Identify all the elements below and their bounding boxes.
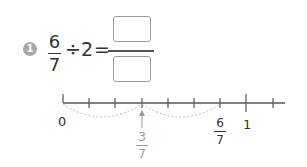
start-label: 0: [58, 115, 66, 128]
result-fraction: 3 7: [136, 131, 148, 160]
fraction-bar: [214, 131, 226, 132]
result-numerator: 3: [136, 131, 148, 143]
marked-denominator: 7: [214, 134, 226, 146]
result-denominator: 7: [136, 148, 148, 160]
marked-fraction: 6 7: [214, 117, 226, 146]
number-line: [0, 0, 307, 167]
end-label: 1: [243, 118, 251, 131]
fraction-bar: [136, 145, 148, 146]
marked-numerator: 6: [214, 117, 226, 129]
